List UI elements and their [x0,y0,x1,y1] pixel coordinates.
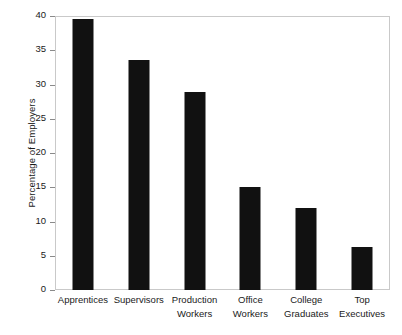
bar[interactable] [72,19,93,290]
y-axis-tick-mark [50,290,55,291]
bar[interactable] [296,208,317,290]
bar-slot [223,16,279,290]
y-axis-tick-label: 20 [35,146,46,157]
bar[interactable] [352,247,373,290]
y-axis-tick-label: 30 [35,78,46,89]
x-axis-label: TopExecutives [329,293,395,320]
y-axis-tick-label: 25 [35,112,46,123]
bar-slot [278,16,334,290]
y-axis-tick-label: 15 [35,180,46,191]
bar-slot [334,16,390,290]
bar[interactable] [184,92,205,290]
bar[interactable] [240,187,261,290]
bar[interactable] [128,60,149,290]
bar-slot [167,16,223,290]
y-axis-tick-label: 35 [35,43,46,54]
bars-layer [55,16,390,290]
y-axis-tick-label: 0 [41,283,46,294]
bar-slot [111,16,167,290]
bar-chart: Percentage of Employers 0510152025303540… [0,0,402,335]
y-axis-tick-label: 10 [35,215,46,226]
y-axis-tick-label: 40 [35,9,46,20]
bar-slot [55,16,111,290]
y-axis-tick-label: 5 [41,249,46,260]
x-axis-labels: ApprenticesSupervisorsProductionWorkersO… [55,293,390,335]
